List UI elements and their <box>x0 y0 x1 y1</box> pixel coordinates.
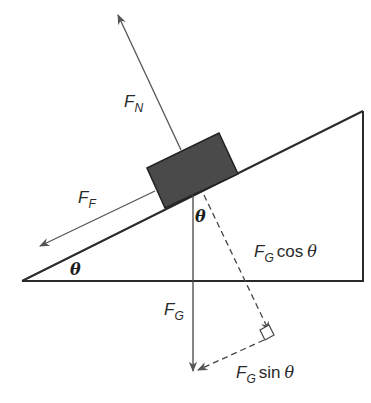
cos-component-label: FGcosθ <box>254 242 317 265</box>
normal-force-arrow <box>118 15 181 150</box>
sin-component-arrow <box>198 340 264 370</box>
cos-component-arrow <box>204 195 269 331</box>
incline-angle-label: θ <box>70 260 81 279</box>
sin-component-label: FGsinθ <box>236 363 294 386</box>
friction-force-arrow <box>40 191 155 246</box>
inclined-plane-diagram: FN FF FG FGcosθ FGsinθ θ θ <box>0 0 371 403</box>
normal-force-label: FN <box>124 92 143 115</box>
right-angle-marker <box>260 325 274 340</box>
friction-force-label: FF <box>78 188 96 211</box>
block-angle-label: θ <box>195 207 206 226</box>
gravity-force-label: FG <box>164 300 184 323</box>
